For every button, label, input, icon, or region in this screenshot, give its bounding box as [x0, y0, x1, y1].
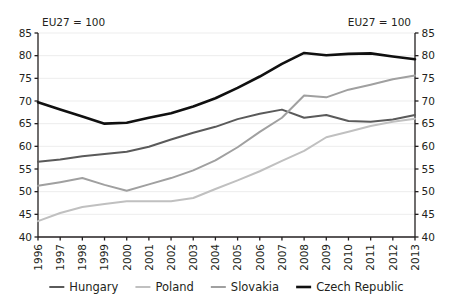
- x-tick-label: 1999: [98, 244, 110, 271]
- y-tick-label-right: 70: [422, 95, 435, 107]
- line-chart: 40455055606570758085 4045505560657075808…: [0, 0, 455, 306]
- y-tick-label-left: 85: [19, 27, 32, 39]
- x-tick-label: 1998: [76, 244, 88, 271]
- x-tick-label: 2007: [276, 244, 288, 271]
- legend-label: Poland: [155, 280, 193, 294]
- y-tick-label-right: 55: [422, 163, 435, 175]
- x-tick-label: 2013: [409, 244, 421, 271]
- y-tick-label-left: 50: [19, 185, 32, 197]
- y-tick-label-right: 80: [422, 49, 435, 61]
- y-tick-label-left: 70: [19, 95, 32, 107]
- y-tick-label-right: 45: [422, 208, 435, 220]
- x-tick-label: 2011: [364, 244, 376, 271]
- legend-label: Hungary: [69, 280, 118, 294]
- y-tick-label-left: 75: [19, 72, 32, 84]
- x-tick-label: 2012: [387, 244, 399, 271]
- y-tick-label-left: 40: [19, 231, 32, 243]
- x-tick-label: 1996: [32, 244, 44, 271]
- y-tick-label-left: 55: [19, 163, 32, 175]
- y-tick-label-left: 65: [19, 117, 32, 129]
- note-left: EU27 = 100: [42, 16, 105, 28]
- y-tick-label-right: 50: [422, 185, 435, 197]
- y-tick-label-left: 60: [19, 140, 32, 152]
- x-tick-label: 2008: [298, 244, 310, 271]
- y-tick-label-left: 80: [19, 49, 32, 61]
- x-tick-label: 2009: [320, 244, 332, 271]
- x-tick-label: 2005: [231, 244, 243, 271]
- y-tick-label-right: 65: [422, 117, 435, 129]
- x-tick-label: 1997: [54, 244, 66, 271]
- y-tick-label-right: 85: [422, 27, 435, 39]
- note-right: EU27 = 100: [348, 16, 411, 28]
- x-tick-label: 2000: [121, 244, 133, 271]
- x-tick-label: 2001: [143, 244, 155, 271]
- y-tick-label-right: 40: [422, 231, 435, 243]
- x-tick-label: 2002: [165, 244, 177, 271]
- x-tick-label: 2010: [342, 244, 354, 271]
- y-tick-label-left: 45: [19, 208, 32, 220]
- legend-label: Czech Republic: [316, 280, 404, 294]
- y-tick-label-right: 75: [422, 72, 435, 84]
- x-tick-label: 2003: [187, 244, 199, 271]
- y-tick-label-right: 60: [422, 140, 435, 152]
- x-tick-label: 2004: [209, 244, 221, 271]
- legend-label: Slovakia: [231, 280, 279, 294]
- x-tick-label: 2006: [254, 244, 266, 271]
- chart-canvas: 40455055606570758085 4045505560657075808…: [0, 0, 455, 306]
